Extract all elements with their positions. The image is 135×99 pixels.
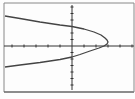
parabola-curve (5, 16, 108, 67)
graph-screen (0, 0, 135, 99)
y-axis (71, 5, 74, 90)
x-axis (4, 45, 134, 48)
graph-canvas (0, 0, 135, 99)
